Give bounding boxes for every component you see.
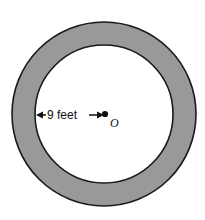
annulus-diagram-canvas: 9 feet O (0, 0, 205, 220)
annulus-figure: 9 feet O (0, 0, 205, 220)
center-point-label: O (110, 116, 119, 130)
center-point-dot (102, 111, 108, 117)
radius-label: 9 feet (47, 108, 78, 122)
